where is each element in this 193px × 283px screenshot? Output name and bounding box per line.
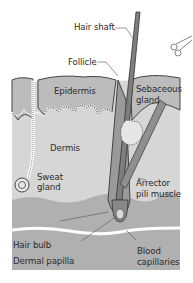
label-follicle: Follicle: [68, 57, 97, 67]
label-blood-2: capillaries: [137, 257, 179, 267]
epidermis-left: [12, 78, 33, 120]
label-sweat-2: gland: [37, 182, 61, 192]
label-sebaceous-1: Sebaceous: [136, 84, 182, 94]
label-arrector-2: pili muscle: [136, 189, 181, 199]
label-blood-1: Blood: [137, 246, 161, 256]
label-dermis: Dermis: [50, 143, 80, 153]
label-epidermis: Epidermis: [54, 86, 96, 96]
label-sweat-1: Sweat: [37, 172, 63, 182]
label-sebaceous-2: gland: [136, 95, 160, 105]
label-dermal-papilla: Dermal papilla: [13, 256, 74, 266]
label-hair-shaft: Hair shaft: [74, 22, 115, 32]
scissors-icon: [171, 36, 192, 56]
sweat-gland-coil: [15, 178, 29, 192]
dermal-papilla: [116, 209, 124, 219]
label-arrector-1: Arrector: [136, 178, 170, 188]
label-hair-bulb: Hair bulb: [13, 240, 51, 250]
